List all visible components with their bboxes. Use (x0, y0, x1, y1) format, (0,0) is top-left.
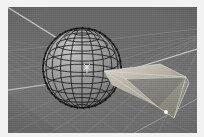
active-vertex-marker[interactable] (164, 110, 168, 114)
object-uv-sphere[interactable] (43, 28, 121, 110)
viewport-3d[interactable] (8, 7, 197, 133)
viewport-canvas[interactable] (8, 7, 197, 133)
screenshot-root: 3D Viewport Solid / Wireframe Overlay Gr… (0, 0, 204, 137)
